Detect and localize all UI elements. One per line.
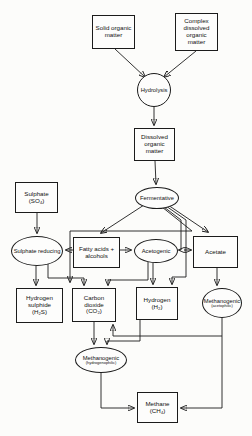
node-label: Fatty acids + alcohols: [75, 246, 118, 260]
node-sulphate-reducing: Sulphate reducing: [11, 236, 63, 266]
node-fermentative: Fermentative: [135, 187, 179, 209]
node-formula: (H₂): [152, 304, 163, 311]
node-carbon-dioxide: Carbon dioxide (CO₂): [72, 288, 116, 322]
node-methane: Methane (CH₄): [137, 392, 178, 423]
edge-dissolved_organic-to-fermentative: [155, 161, 156, 184]
node-label: Hydrolysis: [141, 87, 168, 93]
node-label: Solid organic matter: [94, 25, 133, 39]
node-label: Acetate: [205, 249, 226, 256]
node-sublabel: (hydrogenophilic): [86, 361, 117, 365]
node-label: Complex dissolved organic matter: [177, 18, 216, 46]
node-hydrogen-sulphide: Hydrogen sulphide (H₂S): [16, 288, 63, 323]
node-formula: (H₂S): [32, 309, 47, 316]
node-label: Hydrogen sulphide: [18, 295, 61, 309]
node-formula: (CO₂): [86, 308, 102, 315]
node-complex-dissolved-organic-matter: Complex dissolved organic matter: [175, 13, 218, 51]
node-label: Sulphate reducing: [14, 248, 61, 254]
node-hydrolysis: Hydrolysis: [137, 73, 171, 107]
node-sublabel: (acetophilic): [211, 304, 233, 308]
node-label: Dissolved organic matter: [136, 134, 173, 155]
edge-complex_dissolved-to-hydrolysis: [164, 51, 196, 77]
node-label: Carbon dioxide: [74, 295, 114, 309]
edge-methanogenic_acetophilic-to-methane: [181, 336, 222, 408]
edge-methanogenic_acetophilic-to-carbon_dioxide: [113, 318, 222, 336]
node-acetogenic: Acetogenic: [134, 239, 178, 263]
node-label: Fermentative: [140, 195, 174, 201]
node-sulphate: Sulphate (SO₄): [15, 182, 58, 213]
node-label: Acetogenic: [142, 248, 171, 254]
node-formula: (SO₄): [29, 198, 45, 205]
edge-methanogenic_hydrogenophilic-to-methane: [101, 373, 134, 408]
connector-layer: [0, 0, 252, 436]
node-fatty-acids-alcohols: Fatty acids + alcohols: [73, 237, 120, 268]
edge-solid_organic-to-hydrolysis: [115, 49, 145, 77]
node-acetate: Acetate: [193, 236, 238, 268]
node-formula: (CH₄): [150, 408, 166, 415]
node-solid-organic-matter: Solid organic matter: [92, 15, 135, 49]
node-hydrogen: Hydrogen (H₂): [136, 287, 178, 320]
node-methanogenic-hydrogenophilic: Methanogenic (hydrogenophilic): [75, 347, 127, 373]
edge-hydrogen-to-methanogenic_hydrogenophilic: [107, 320, 140, 344]
edge-fermentative-to-fatty_acids: [101, 205, 144, 233]
node-dissolved-organic-matter: Dissolved organic matter: [134, 128, 175, 161]
flow-diagram: Solid organic matter Complex dissolved o…: [0, 0, 252, 436]
node-methanogenic-acetophilic: Methanogenic (acetophilic): [202, 288, 242, 318]
